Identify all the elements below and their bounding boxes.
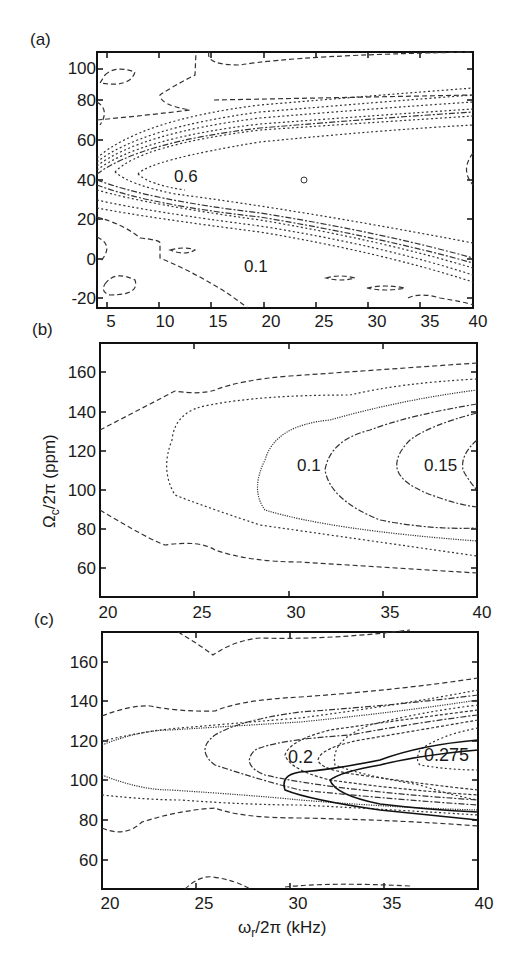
y-axis-label-main: Ω <box>40 515 59 528</box>
ytick: -20 <box>52 290 96 307</box>
ytick: 80 <box>52 92 96 109</box>
contour-label-0-1: 0.1 <box>297 457 321 474</box>
x-axis-label-rest: /2π (kHz) <box>255 918 326 937</box>
xtick: 35 <box>410 313 450 330</box>
xtick: 25 <box>182 604 222 621</box>
contour-label-0-6: 0.6 <box>174 168 198 185</box>
xtick: 40 <box>458 313 498 330</box>
x-axis-label-main: ω <box>238 918 251 937</box>
ytick: 60 <box>52 560 96 577</box>
y-axis-label-rest: /2π (ppm) <box>40 434 59 509</box>
xtick: 30 <box>276 604 316 621</box>
ytick: 40 <box>52 172 96 189</box>
xtick: 15 <box>198 313 238 330</box>
xtick: 40 <box>462 604 502 621</box>
y-axis-label: Ωc/2π (ppm) <box>40 434 62 528</box>
contour-label-0-2: 0.2 <box>288 748 313 766</box>
ytick: 120 <box>54 733 98 750</box>
ytick: 100 <box>52 60 96 77</box>
xtick: 20 <box>251 313 291 330</box>
ytick: 160 <box>52 364 96 381</box>
xtick: 30 <box>278 895 318 912</box>
xtick: 35 <box>372 895 412 912</box>
contour-label-0-275: 0.275 <box>424 746 469 764</box>
ytick: 20 <box>52 211 96 228</box>
contour-label-0-15: 0.15 <box>424 457 457 474</box>
xtick: 35 <box>370 604 410 621</box>
ytick: 0 <box>52 251 96 268</box>
ytick: 160 <box>54 654 98 671</box>
ytick: 60 <box>52 132 96 149</box>
contour-label-0-1: 0.1 <box>244 258 268 275</box>
xtick: 10 <box>145 313 185 330</box>
xtick: 5 <box>91 313 131 330</box>
xtick: 20 <box>88 604 128 621</box>
x-axis-label: ωr/2π (kHz) <box>238 918 327 940</box>
ytick: 140 <box>52 404 96 421</box>
panel-b-frame <box>100 343 477 597</box>
panel-a-frame <box>97 52 473 308</box>
xtick: 25 <box>304 313 344 330</box>
xtick: 30 <box>357 313 397 330</box>
ytick: 80 <box>54 812 98 829</box>
xtick: 40 <box>464 895 504 912</box>
y-axis-label-sub: c <box>48 509 62 515</box>
ytick: 140 <box>54 693 98 710</box>
ytick: 100 <box>54 772 98 789</box>
xtick: 20 <box>90 895 130 912</box>
xtick: 25 <box>184 895 224 912</box>
ytick: 60 <box>54 852 98 869</box>
